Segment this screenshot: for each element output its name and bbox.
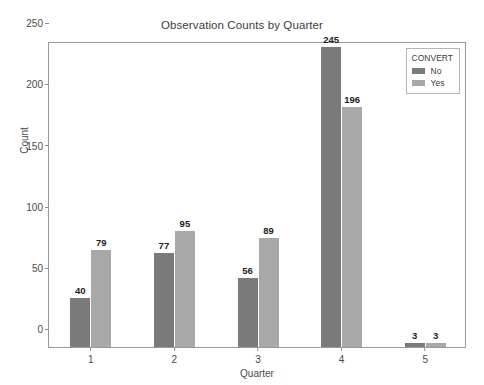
bar-value-label: 79 [96, 237, 107, 248]
bar-no-q5: 3 [405, 343, 425, 347]
x-tick-label: 5 [422, 354, 428, 365]
y-tick-4: 200 [26, 75, 49, 93]
x-tick-label: 4 [339, 354, 345, 365]
legend-swatch-icon [412, 68, 425, 74]
bar-value-label: 245 [323, 34, 339, 45]
y-tick-0: 0 [37, 320, 49, 338]
y-tick-mark [45, 84, 49, 85]
bar-no-q3: 56 [238, 278, 258, 347]
plot-area: 050100150200250 12345 407977955689245196… [48, 42, 466, 348]
legend-item-yes[interactable]: Yes [412, 78, 453, 88]
x-tick-2: 2 [172, 347, 178, 365]
x-tick-4: 4 [339, 347, 345, 365]
y-tick-5: 250 [26, 14, 49, 32]
y-tick-2: 100 [26, 198, 49, 216]
bar-no-q1: 40 [70, 298, 90, 347]
x-tick-mark [90, 347, 91, 351]
legend-label: Yes [431, 78, 445, 88]
bar-yes-q1: 79 [91, 250, 111, 347]
y-tick-mark [45, 207, 49, 208]
bar-yes-q4: 196 [342, 107, 362, 347]
legend-items: NoYes [412, 66, 453, 88]
y-tick-mark [45, 23, 49, 24]
legend-label: No [431, 66, 442, 76]
chart-title: Observation Counts by Quarter [0, 19, 484, 31]
x-tick-label: 3 [255, 354, 261, 365]
bar-no-q4: 245 [321, 47, 341, 347]
bar-value-label: 3 [433, 330, 438, 341]
legend-title: CONVERT [412, 53, 453, 63]
x-tick-mark [174, 347, 175, 351]
x-tick-label: 1 [88, 354, 94, 365]
bar-value-label: 95 [180, 218, 191, 229]
bar-yes-q2: 95 [175, 231, 195, 347]
bar-no-q2: 77 [154, 253, 174, 347]
bar-yes-q3: 89 [259, 238, 279, 347]
legend-item-no[interactable]: No [412, 66, 453, 76]
y-tick-mark [45, 268, 49, 269]
legend-swatch-icon [412, 80, 425, 86]
bar-value-label: 40 [75, 285, 86, 296]
x-tick-mark [341, 347, 342, 351]
x-tick-5: 5 [422, 347, 428, 365]
bar-yes-q5: 3 [426, 343, 446, 347]
bar-chart: Observation Counts by Quarter Count Quar… [0, 0, 484, 385]
y-tick-mark [45, 329, 49, 330]
legend: CONVERT NoYes [406, 48, 460, 94]
bar-value-label: 89 [263, 225, 274, 236]
bar-value-label: 77 [159, 240, 170, 251]
y-tick-3: 150 [26, 136, 49, 154]
x-tick-1: 1 [88, 347, 94, 365]
x-tick-mark [258, 347, 259, 351]
bar-value-label: 3 [412, 330, 417, 341]
y-tick-mark [45, 145, 49, 146]
x-tick-mark [425, 347, 426, 351]
x-axis-label: Quarter [48, 368, 466, 379]
x-tick-3: 3 [255, 347, 261, 365]
bar-value-label: 196 [344, 94, 360, 105]
x-tick-label: 2 [172, 354, 178, 365]
y-tick-1: 50 [32, 259, 49, 277]
bar-value-label: 56 [242, 265, 253, 276]
